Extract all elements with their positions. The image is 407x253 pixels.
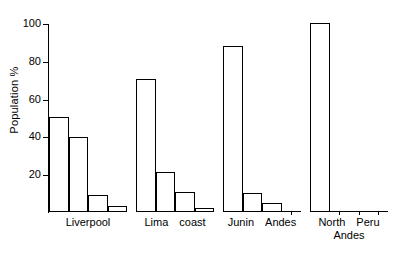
bar-lima-coast-2[interactable] bbox=[156, 172, 176, 211]
x-axis-baseline-north-peru-andes bbox=[310, 211, 388, 212]
bar-chart-figure: Population % 20406080100 LiverpoolLimaco… bbox=[0, 0, 407, 253]
group-label-north-peru-andes: NorthPeruAndes bbox=[310, 216, 388, 242]
bar-liverpool-2[interactable] bbox=[69, 137, 89, 211]
group-label-word: Andes bbox=[265, 216, 296, 229]
group-label-word: coast bbox=[179, 216, 205, 229]
group-label-word: Liverpool bbox=[66, 216, 111, 229]
bar-junin-andes-2[interactable] bbox=[243, 193, 263, 211]
x-axis-baseline-liverpool bbox=[49, 211, 127, 212]
group-label-liverpool: Liverpool bbox=[49, 216, 127, 229]
bar-group-liverpool: Liverpool bbox=[49, 23, 127, 212]
bar-junin-andes-3[interactable] bbox=[262, 203, 282, 211]
bars-container bbox=[49, 23, 127, 211]
group-label-junin-andes: JuninAndes bbox=[223, 216, 301, 229]
y-tick-label: 60 bbox=[15, 94, 41, 105]
group-label-word: Junin bbox=[228, 216, 254, 229]
bar-lima-coast-3[interactable] bbox=[175, 192, 195, 211]
y-tick-label-wrap: 100 bbox=[11, 18, 41, 29]
bar-junin-andes-1[interactable] bbox=[223, 46, 243, 211]
y-tick-label: 80 bbox=[15, 56, 41, 67]
x-axis-baseline-junin-andes bbox=[223, 211, 301, 212]
group-label-line1: Limacoast bbox=[136, 216, 214, 229]
y-tick-label-wrap: 60 bbox=[11, 94, 41, 105]
group-label-lima-coast: Limacoast bbox=[136, 216, 214, 229]
group-label-line1: NorthPeru bbox=[310, 216, 388, 229]
bar-liverpool-3[interactable] bbox=[88, 195, 108, 211]
bar-group-north-peru-andes: NorthPeruAndes bbox=[310, 23, 388, 212]
y-tick-label: 40 bbox=[15, 131, 41, 142]
bars-container bbox=[223, 23, 301, 211]
group-label-line1: Liverpool bbox=[49, 216, 127, 229]
bars-container bbox=[310, 23, 388, 211]
y-tick-label-wrap: 80 bbox=[11, 56, 41, 67]
bar-liverpool-1[interactable] bbox=[49, 117, 69, 212]
bars-container bbox=[136, 23, 214, 211]
y-tick-label: 20 bbox=[15, 169, 41, 180]
y-tick-label-wrap: 40 bbox=[11, 131, 41, 142]
group-label-line1: JuninAndes bbox=[223, 216, 301, 229]
group-label-word: Peru bbox=[356, 216, 379, 229]
group-label-line2: Andes bbox=[310, 229, 388, 242]
y-tick-label: 100 bbox=[15, 18, 41, 29]
x-axis-baseline-lima-coast bbox=[136, 211, 214, 212]
bar-north-peru-andes-1[interactable] bbox=[310, 23, 330, 211]
bar-group-junin-andes: JuninAndes bbox=[223, 23, 301, 212]
bar-lima-coast-1[interactable] bbox=[136, 79, 156, 211]
y-tick-label-wrap: 20 bbox=[11, 169, 41, 180]
group-label-word: North bbox=[318, 216, 345, 229]
bar-group-lima-coast: Limacoast bbox=[136, 23, 214, 212]
group-label-word: Lima bbox=[144, 216, 168, 229]
